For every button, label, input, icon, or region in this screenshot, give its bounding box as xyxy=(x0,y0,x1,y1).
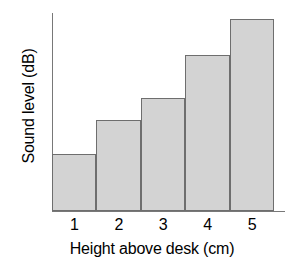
bar-category-5 xyxy=(230,19,274,211)
y-axis-title: Sound level (dB) xyxy=(14,0,44,212)
x-tick-labels: 1 2 3 4 5 xyxy=(52,215,274,237)
x-tick-label-1: 1 xyxy=(52,215,97,235)
plot-area xyxy=(52,13,285,212)
x-tick-label-2: 2 xyxy=(96,215,141,235)
bar-chart-figure: Sound level (dB) 1 2 3 4 5 Height above … xyxy=(0,0,304,270)
x-tick-label-4: 4 xyxy=(185,215,230,235)
bar-category-1 xyxy=(52,154,96,211)
x-tick-label-5: 5 xyxy=(230,215,275,235)
bars-group xyxy=(52,13,274,211)
bar-category-3 xyxy=(141,98,185,211)
bar-category-4 xyxy=(185,55,229,211)
x-tick-label-3: 3 xyxy=(141,215,186,235)
x-axis-title: Height above desk (cm) xyxy=(0,240,304,258)
bar-category-2 xyxy=(96,120,140,211)
x-axis-line xyxy=(52,211,285,212)
